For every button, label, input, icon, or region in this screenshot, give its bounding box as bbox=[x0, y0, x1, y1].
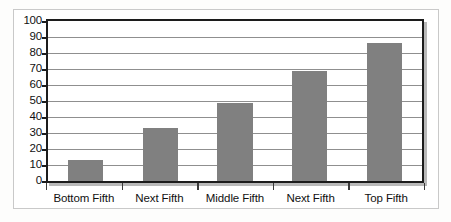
x-tick-mark bbox=[348, 183, 349, 190]
y-tick-mark bbox=[42, 69, 47, 71]
y-tick-label: 50 bbox=[30, 95, 42, 107]
bar-slot bbox=[272, 21, 347, 181]
x-tick-mark bbox=[424, 183, 425, 190]
y-tick-mark bbox=[42, 181, 47, 183]
bar-slot bbox=[123, 21, 198, 181]
x-axis-category-label: Next Fifth bbox=[122, 190, 198, 210]
bar[interactable] bbox=[367, 43, 402, 181]
bar-slot bbox=[347, 21, 422, 181]
bar[interactable] bbox=[143, 128, 178, 181]
x-axis-labels: Bottom FifthNext FifthMiddle FifthNext F… bbox=[46, 190, 424, 210]
bar-slot bbox=[48, 21, 123, 181]
plot-wrapper bbox=[46, 19, 424, 183]
x-axis-ticks bbox=[46, 183, 424, 190]
y-tick-label: 10 bbox=[30, 159, 42, 171]
y-tick-label: 90 bbox=[30, 31, 42, 43]
y-tick-label: 30 bbox=[30, 127, 42, 139]
y-tick-mark bbox=[42, 149, 47, 151]
y-tick-label: 60 bbox=[30, 79, 42, 91]
y-tick-label: 40 bbox=[30, 111, 42, 123]
x-tick-mark bbox=[46, 183, 47, 190]
y-tick-mark bbox=[42, 133, 47, 135]
plot-inner bbox=[48, 21, 422, 181]
x-tick-mark bbox=[197, 183, 198, 190]
bars-layer bbox=[48, 21, 422, 181]
x-tick-mark bbox=[122, 183, 123, 190]
x-tick-mark bbox=[273, 183, 274, 190]
y-tick-mark bbox=[42, 37, 47, 39]
x-axis-category-label: Middle Fifth bbox=[197, 190, 273, 210]
y-tick-mark bbox=[42, 101, 47, 103]
figure-root: 1009080706050403020100 Bottom FifthNext … bbox=[0, 0, 451, 222]
x-axis-category-label: Bottom Fifth bbox=[46, 190, 122, 210]
y-tick-mark bbox=[42, 21, 47, 23]
y-tick-mark bbox=[42, 117, 47, 119]
plot-area bbox=[46, 19, 424, 183]
x-axis-category-label: Top Fifth bbox=[348, 190, 424, 210]
bar[interactable] bbox=[217, 103, 252, 181]
y-tick-mark bbox=[42, 165, 47, 167]
y-tick-mark bbox=[42, 53, 47, 55]
bar[interactable] bbox=[292, 71, 327, 181]
bar-slot bbox=[198, 21, 273, 181]
y-tick-label: 20 bbox=[30, 143, 42, 155]
y-tick-label: 80 bbox=[30, 47, 42, 59]
y-tick-mark bbox=[42, 85, 47, 87]
y-tick-label: 100 bbox=[23, 15, 42, 27]
bar[interactable] bbox=[68, 160, 103, 181]
y-tick-label: 70 bbox=[30, 63, 42, 75]
y-axis: 1009080706050403020100 bbox=[13, 19, 42, 183]
x-axis-category-label: Next Fifth bbox=[273, 190, 349, 210]
